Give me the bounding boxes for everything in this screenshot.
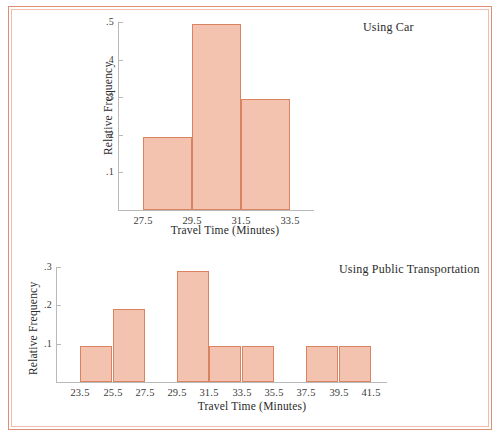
y-axis-tick-label: .2 [30, 300, 52, 310]
y-axis-tick [118, 22, 123, 23]
y-axis-tick [118, 97, 123, 98]
y-axis-tick-label: .3 [92, 92, 114, 102]
chart-caption-car: Using Car [363, 20, 414, 34]
x-axis-tick-label: 27.5 [127, 387, 163, 398]
y-axis-line [118, 22, 119, 210]
histogram-bar [192, 24, 241, 210]
y-axis-tick [56, 267, 61, 268]
histogram-bar [143, 137, 192, 210]
x-axis-tick-label: 39.5 [321, 387, 357, 398]
y-axis-title-pt: Relative Frequency [27, 282, 40, 375]
y-axis-tick [56, 344, 61, 345]
y-axis-tick-label: .2 [92, 130, 114, 140]
histogram-bar [241, 99, 290, 210]
y-axis-tick-label: .1 [92, 167, 114, 177]
x-axis-tick-label: 33.5 [224, 387, 260, 398]
x-axis-line [56, 382, 387, 383]
histogram-bar [242, 346, 274, 382]
x-axis-tick-label: 41.5 [353, 387, 389, 398]
figure-page: Using Car Relative Frequency Travel Time… [0, 0, 501, 441]
y-axis-title-car: Relative Frequency [102, 62, 115, 155]
y-axis-tick-label: .4 [92, 55, 114, 65]
x-axis-tick-label: 25.5 [95, 387, 131, 398]
x-axis-tick-label: 27.5 [125, 215, 161, 226]
histogram-using-car: Using Car Relative Frequency Travel Time… [0, 0, 501, 245]
x-axis-tick-label: 23.5 [62, 387, 98, 398]
histogram-bar [80, 346, 112, 382]
histogram-bar [177, 271, 209, 382]
plot-area-car: .1.2.3.4.527.529.531.533.5 [118, 22, 314, 210]
x-axis-tick-label: 29.5 [174, 215, 210, 226]
y-axis-tick [118, 60, 123, 61]
histogram-bar [113, 309, 145, 382]
x-axis-line [118, 210, 314, 211]
plot-area-pt: .1.2.323.525.527.529.531.533.535.537.539… [56, 267, 387, 382]
y-axis-tick [118, 135, 123, 136]
histogram-bar [306, 346, 338, 382]
histogram-using-public-transportation: Using Public Transportation Relative Fre… [0, 245, 501, 441]
x-axis-tick-label: 35.5 [256, 387, 292, 398]
x-axis-tick-label: 31.5 [191, 387, 227, 398]
histogram-bar [209, 346, 241, 382]
y-axis-line [56, 267, 57, 382]
histogram-bar [339, 346, 371, 382]
y-axis-tick [118, 172, 123, 173]
x-axis-title-pt: Travel Time (Minutes) [167, 400, 337, 413]
y-axis-tick-label: .3 [30, 262, 52, 272]
x-axis-tick-label: 31.5 [223, 215, 259, 226]
x-axis-tick-label: 29.5 [159, 387, 195, 398]
y-axis-tick [56, 305, 61, 306]
y-axis-tick-label: .5 [92, 17, 114, 27]
y-axis-tick-label: .1 [30, 339, 52, 349]
x-axis-tick-label: 37.5 [288, 387, 324, 398]
x-axis-tick-label: 33.5 [272, 215, 308, 226]
